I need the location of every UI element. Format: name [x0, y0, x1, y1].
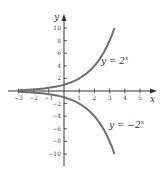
y-tick-label: 2 [57, 74, 61, 81]
x-tick-label: 1 [77, 94, 81, 101]
x-tick-label: −3 [14, 94, 23, 101]
x-tick-label: 4 [123, 94, 127, 101]
y-tick-label: 8 [57, 37, 61, 44]
y-tick-label: −4 [52, 112, 61, 119]
y-axis-arrow-icon [62, 14, 67, 21]
y-tick-label: −10 [48, 150, 61, 157]
curve-y-neg-2-pow-x [18, 92, 114, 154]
label-y-neg-2-pow-x: y = −2x [108, 118, 145, 130]
label-text: y = 2 [100, 56, 125, 66]
x-tick-label: 3 [108, 94, 112, 101]
label-y-2-pow-x: y = 2x [100, 54, 129, 66]
y-tick-label: 10 [53, 24, 61, 31]
y-tick-label: −6 [52, 125, 61, 132]
x-axis-label: x [150, 94, 155, 104]
y-tick-label: 6 [57, 49, 61, 56]
y-tick-label: −2 [52, 100, 61, 107]
label-exponent: x [125, 54, 129, 61]
y-axis-label: y [53, 12, 60, 22]
label-text: y = −2 [108, 120, 141, 130]
x-tick-label: 2 [92, 94, 96, 101]
x-axis-arrow-icon [150, 89, 157, 94]
exponential-graph: x y −3−2−112345 −10−8−6−4−2246810 y = 2x… [0, 0, 164, 174]
x-tick-label: −2 [29, 94, 38, 101]
x-tick-label: 5 [138, 94, 142, 101]
y-tick-label: 4 [57, 62, 61, 69]
y-tick-label: −8 [52, 137, 61, 144]
label-exponent: x [141, 118, 145, 125]
